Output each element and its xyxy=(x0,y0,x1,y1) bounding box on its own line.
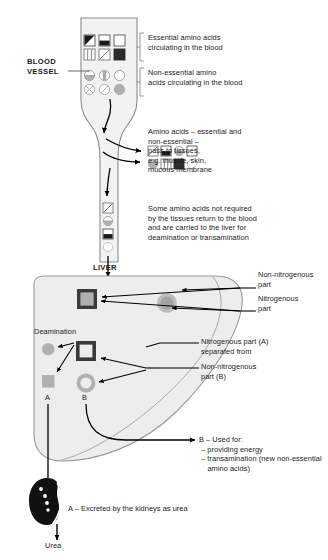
symbol-circle-bottom-half xyxy=(103,216,112,225)
symbol-square-diagonal-line xyxy=(99,49,110,60)
separated-square xyxy=(76,341,96,361)
deamination-label: Deamination xyxy=(34,327,76,337)
symbol-square-solid-black xyxy=(114,49,125,60)
a-excreted-label: A – Excreted by the kidneys as urea xyxy=(68,504,188,514)
blood-vessel-label: BLOOD VESSEL xyxy=(27,57,59,76)
symbol-circle-empty xyxy=(103,242,112,251)
nitrogenous-part-a-circle xyxy=(42,343,54,355)
nitrogenous-part-label: Nitrogenous part xyxy=(258,294,298,313)
symbol-square-vertical-split xyxy=(84,49,95,60)
symbol-circle-vertical-bar xyxy=(99,70,109,80)
nitrogenous-part-a-square xyxy=(42,375,55,388)
pass-to-tissues-label: Amino acids – essential and non-essentia… xyxy=(148,127,241,175)
label-a: A xyxy=(45,393,50,403)
nitrogenous-and-non-nitrogenous-circle xyxy=(157,293,177,313)
essential-amino-acids-label: Essential amino acids circulating in the… xyxy=(148,33,223,52)
symbol-circle-solid-gray xyxy=(114,84,124,94)
b-used-for-label: B – Used for: – providing energy – trans… xyxy=(199,435,322,473)
symbol-circle-cross xyxy=(84,84,94,94)
label-b: B xyxy=(82,393,87,403)
urea-label: Urea xyxy=(45,541,61,551)
return-to-blood-label: Some amino acids not required by the tis… xyxy=(148,204,257,242)
symbol-square-diagonal-line xyxy=(103,203,113,213)
non-essential-amino-acids-label: Non-essential amino acids circulating in… xyxy=(148,68,242,87)
nitrogenous-and-non-nitrogenous-square xyxy=(77,289,97,309)
symbol-circle-bottom-half xyxy=(84,70,94,80)
symbol-circle-diagonal-line xyxy=(99,84,109,94)
non-nitrogenous-part-b-label: Non-nitrogenous part (B) xyxy=(201,362,256,381)
symbol-square-diagonal-triangle xyxy=(84,35,95,46)
nitrogenous-part-a-label: Nitrogenous part (A) separated from xyxy=(201,337,269,356)
diagram-canvas: BLOOD VESSEL Essential amino acids circu… xyxy=(0,0,328,560)
symbol-square-bottom-half xyxy=(103,229,113,239)
bracket-non-essential xyxy=(137,68,145,96)
non-nitrogenous-part-b-ring xyxy=(77,374,96,393)
liver-label: LIVER xyxy=(93,263,117,273)
non-nitrogenous-part-label: Non-nitrogenous part xyxy=(258,270,313,289)
kidney-shape xyxy=(29,478,62,525)
symbol-square-bottom-half xyxy=(99,35,110,46)
symbol-circle-empty xyxy=(114,70,124,80)
bracket-essential xyxy=(137,33,145,61)
symbol-square-empty xyxy=(114,35,125,46)
